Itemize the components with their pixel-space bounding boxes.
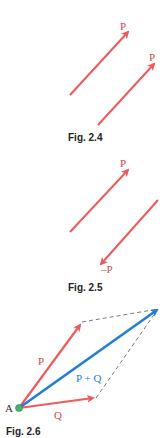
vector-p-arrow xyxy=(70,170,128,232)
vector-resultant-label: P + Q xyxy=(76,372,101,384)
vector-neg-p-arrow xyxy=(101,200,158,264)
vector-diagrams: P P Fig. 2.4 P –P Fig. 2.5 A P Q P + Q F… xyxy=(0,0,165,438)
vector-p-label: P xyxy=(38,355,44,367)
vector-neg-p-label: –P xyxy=(100,263,113,275)
point-a-dot xyxy=(16,405,23,412)
dashed-parallel-line xyxy=(96,309,158,398)
figure-2-6: A P Q P + Q Fig. 2.6 xyxy=(5,309,158,437)
vector-p-label: P xyxy=(120,157,126,169)
figure-2-4: P P Fig. 2.4 xyxy=(68,20,155,143)
vector-q-label: Q xyxy=(54,409,62,421)
figure-caption: Fig. 2.4 xyxy=(68,132,103,143)
point-a-label: A xyxy=(5,402,13,414)
vector-p-label: P xyxy=(120,20,126,32)
dashed-parallel-line xyxy=(82,309,158,322)
vector-p-arrow xyxy=(70,32,128,95)
vector-p-label: P xyxy=(149,51,155,63)
figure-2-5: P –P Fig. 2.5 xyxy=(68,157,158,293)
vector-p-arrow xyxy=(98,64,154,125)
figure-caption: Fig. 2.6 xyxy=(6,426,41,437)
vector-p-arrow xyxy=(19,325,80,408)
figure-caption: Fig. 2.5 xyxy=(68,282,103,293)
